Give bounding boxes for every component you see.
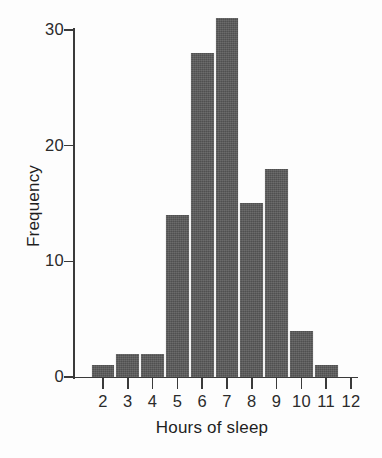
y-axis-title: Frequency [24,76,44,336]
x-tick-7 [226,378,228,389]
bar-3 [115,354,140,377]
y-tick-0 [64,376,73,378]
x-tick-11 [325,378,327,389]
y-tick-10 [64,261,73,263]
y-tick-30 [64,29,73,31]
bar-11 [314,365,339,377]
x-tick-4 [152,378,154,389]
x-tick-label: 12 [333,392,369,411]
bar-9 [264,169,289,377]
x-tick-10 [301,378,303,389]
bar-6 [190,53,215,377]
plot-area: 0102030 23456789101112 Frequency Hours o… [0,0,382,458]
x-tick-8 [251,378,253,389]
y-tick-label: 0 [24,367,64,386]
x-tick-12 [350,378,352,389]
bar-5 [165,215,190,377]
x-tick-5 [177,378,179,389]
bar-2 [91,365,116,377]
bar-4 [140,354,165,377]
bar-7 [215,18,240,377]
x-tick-9 [276,378,278,389]
bar-10 [289,331,314,377]
x-axis-title: Hours of sleep [66,418,358,438]
histogram-figure: 0102030 23456789101112 Frequency Hours o… [0,0,382,458]
y-axis-line [73,28,75,379]
bar-8 [239,203,264,377]
x-tick-6 [201,378,203,389]
y-tick-20 [64,145,73,147]
y-tick-label: 30 [24,20,64,39]
x-tick-2 [102,378,104,389]
x-tick-3 [127,378,129,389]
